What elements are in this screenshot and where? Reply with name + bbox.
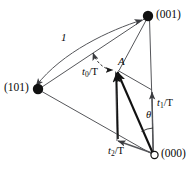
node-label-001: (001): [156, 9, 181, 21]
vector-label-t1-denominator: /T: [164, 97, 173, 108]
diagram-figure: (001) (101) (000) A 1 θ t0/T t1/T t2/T: [0, 0, 193, 172]
point-label-A: A: [118, 56, 125, 67]
angle-label-theta: θ: [146, 110, 151, 121]
vector-label-t0: t0/T: [82, 67, 98, 79]
vector-label-t1: t1/T: [157, 98, 173, 110]
node-001: [143, 11, 153, 21]
node-101: [33, 84, 43, 94]
node-label-000: (000): [161, 148, 186, 160]
vector-label-t2-denominator: /T: [115, 145, 124, 156]
vector-label-t2: t2/T: [108, 146, 124, 158]
arrow-t1: [152, 92, 153, 152]
edge-101-to-000: [41, 91, 152, 154]
arc-label-unit: 1: [61, 32, 67, 43]
vector-label-t0-denominator: /T: [89, 66, 98, 77]
node-label-101: (101): [4, 82, 29, 94]
node-000: [151, 151, 158, 158]
